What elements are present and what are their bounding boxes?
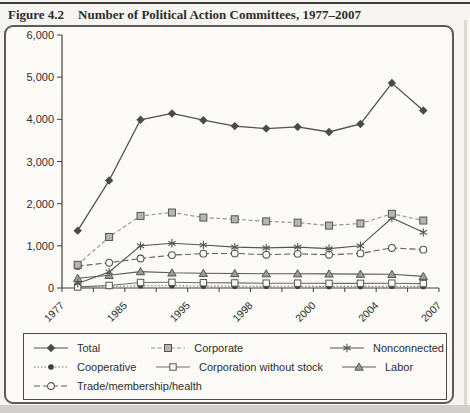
legend-item-total: Total (26, 341, 143, 355)
gray-square-marker (420, 217, 427, 224)
legend-box: TotalCorporateNonconnectedCooperativeCor… (23, 333, 447, 400)
diamond-marker (74, 226, 82, 234)
diamond-marker (136, 116, 144, 124)
open-square-marker (169, 279, 175, 285)
legend-row: CooperativeCorporation without stockLabo… (26, 357, 444, 376)
legend-label: Corporation without stock (199, 361, 323, 373)
diamond-marker (293, 123, 301, 131)
legend-swatch (32, 341, 70, 355)
legend-item-cooperative: Cooperative (26, 360, 148, 374)
diamond-marker (168, 109, 176, 117)
y-tick-label: 0 (48, 282, 54, 294)
open-circle-marker (357, 250, 364, 257)
open-circle-marker (388, 245, 395, 252)
gray-square-marker (263, 218, 270, 225)
filled-circle-marker (48, 364, 54, 370)
legend-row: Trade/membership/health (26, 376, 444, 395)
legend-item-corporate: Corporate (143, 341, 322, 355)
triangle-marker (136, 268, 144, 275)
open-circle-marker (263, 251, 270, 258)
diamond-marker (231, 122, 239, 130)
x-tick-label: 2000 (293, 299, 318, 324)
gray-square-marker (357, 220, 364, 227)
gray-square-marker (294, 219, 301, 226)
legend-swatch (32, 360, 70, 374)
legend-swatch (328, 341, 366, 355)
y-tick-label: 1,000 (26, 240, 54, 252)
figure-label: Figure 4.2 (8, 7, 64, 22)
y-tick-label: 4,000 (26, 113, 54, 125)
open-square-marker (326, 280, 332, 286)
top-rule (0, 2, 470, 4)
legend-label: Nonconnected (373, 342, 444, 354)
page-edge-right (464, 20, 467, 405)
x-tick-label: 1995 (167, 299, 192, 324)
x-tick-label: 2007 (418, 299, 443, 324)
figure-caption: Number of Political Action Committees, 1… (78, 7, 361, 22)
open-circle-marker (48, 382, 55, 389)
diamond-marker (47, 343, 55, 351)
series-corporate (74, 209, 427, 268)
legend-label: Corporate (194, 342, 243, 354)
open-square-marker (420, 280, 426, 286)
legend-label: Labor (385, 361, 413, 373)
open-square-marker (232, 280, 238, 286)
series-line (78, 248, 424, 266)
legend-swatch (32, 379, 70, 393)
open-square-marker (357, 280, 363, 286)
diamond-marker (199, 116, 207, 124)
gray-square-marker (231, 216, 238, 223)
plot-area: 01,0002,0003,0004,0005,0006,000197719851… (6, 27, 452, 329)
legend-item-trade-membership-health: Trade/membership/health (26, 379, 148, 393)
gray-square-marker (137, 212, 144, 219)
gray-square-marker (168, 209, 175, 216)
diamond-marker (325, 128, 333, 136)
legend-item-labor: Labor (334, 360, 444, 374)
series-total (74, 79, 428, 235)
legend-label: Trade/membership/health (77, 380, 202, 392)
legend-swatch (154, 360, 192, 374)
x-tick-label: 1998 (230, 299, 255, 324)
open-circle-marker (137, 255, 144, 262)
gray-square-marker (326, 222, 333, 229)
open-square-marker (106, 282, 112, 288)
y-tick-label: 5,000 (26, 71, 54, 83)
open-circle-marker (106, 259, 113, 266)
open-square-marker (389, 280, 395, 286)
legend-item-nonconnected: Nonconnected (322, 341, 444, 355)
open-square-marker (170, 363, 176, 369)
gray-square-marker (388, 210, 395, 217)
gray-square-marker (106, 233, 113, 240)
legend-item-corporation-without-stock: Corporation without stock (148, 360, 334, 374)
legend-label: Cooperative (77, 361, 136, 373)
diamond-marker (262, 124, 270, 132)
legend-swatch (149, 341, 187, 355)
gray-square-marker (74, 261, 81, 268)
legend-row: TotalCorporateNonconnected (26, 338, 444, 357)
page: Figure 4.2Number of Political Action Com… (0, 0, 470, 413)
open-square-marker (137, 279, 143, 285)
diamond-marker (105, 176, 113, 184)
gray-square-marker (200, 214, 207, 221)
y-tick-label: 6,000 (26, 29, 54, 41)
x-tick-label: 1985 (104, 299, 129, 324)
chart-frame: 01,0002,0003,0004,0005,0006,000197719851… (4, 25, 454, 404)
open-circle-marker (200, 250, 207, 257)
series-line (78, 83, 424, 231)
x-tick-label: 1977 (41, 299, 66, 324)
legend-label: Total (77, 342, 100, 354)
open-circle-marker (169, 252, 176, 259)
x-tick-label: 2004 (356, 299, 381, 324)
legend-swatch (340, 360, 378, 374)
y-tick-label: 3,000 (26, 156, 54, 168)
open-square-marker (200, 280, 206, 286)
open-square-marker (294, 280, 300, 286)
open-circle-marker (294, 250, 301, 257)
open-circle-marker (420, 246, 427, 253)
figure-title: Figure 4.2Number of Political Action Com… (8, 7, 466, 23)
series-labor (74, 268, 428, 282)
page-edge-bottom (0, 405, 470, 413)
y-tick-label: 2,000 (26, 198, 54, 210)
open-square-marker (263, 280, 269, 286)
gray-square-marker (165, 344, 172, 351)
